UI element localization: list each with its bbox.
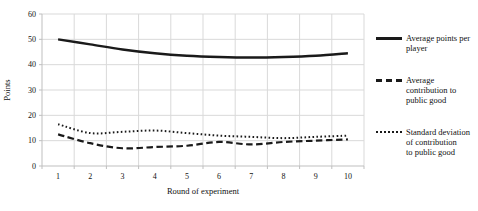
x-tick-label: 6 — [217, 172, 221, 181]
legend-label: Average points perplayer — [406, 33, 470, 53]
x-axis-title: Round of experiment — [167, 186, 240, 196]
chart-legend: Average points perplayerAveragecontribut… — [376, 0, 476, 157]
legend-label: Standard deviationof contributionto publ… — [406, 127, 470, 157]
legend-item: Standard deviationof contributionto publ… — [376, 127, 476, 157]
y-axis-title: Points — [2, 79, 12, 100]
legend-line-sample-dotted — [376, 131, 402, 133]
x-tick-label: 10 — [344, 172, 352, 181]
x-tick-label: 5 — [185, 172, 189, 181]
y-tick-label: 20 — [28, 111, 36, 120]
x-tick-label: 1 — [56, 172, 60, 181]
legend-line-sample-solid — [376, 37, 402, 40]
x-tick-label: 3 — [121, 172, 125, 181]
y-tick-label: 50 — [28, 35, 36, 44]
y-tick-label: 10 — [28, 136, 36, 145]
y-tick-label: 30 — [28, 86, 36, 95]
x-tick-label: 9 — [314, 172, 318, 181]
x-tick-label: 4 — [153, 172, 157, 181]
y-tick-label: 60 — [28, 10, 36, 19]
y-tick-label: 0 — [32, 162, 36, 171]
x-tick-label: 8 — [282, 172, 286, 181]
legend-item: Average points perplayer — [376, 33, 476, 53]
x-tick-label: 7 — [249, 172, 253, 181]
legend-item: Averagecontribution topublic good — [376, 75, 476, 105]
chart-figure: 010203040506012345678910PointsRound of e… — [0, 0, 478, 211]
x-tick-label: 2 — [88, 172, 92, 181]
y-tick-label: 40 — [28, 60, 36, 69]
legend-line-sample-dashed — [376, 79, 402, 82]
legend-label: Averagecontribution topublic good — [406, 75, 456, 105]
